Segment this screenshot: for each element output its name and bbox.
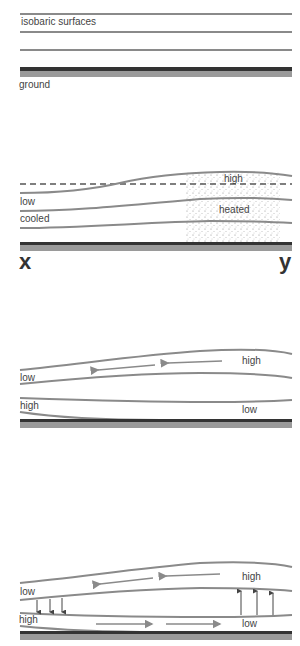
high-label: high [224,174,243,184]
y-label: y [279,251,291,273]
x-label: x [19,251,31,273]
heated-label: heated [219,205,250,215]
lower-high-label: high [20,401,39,411]
ground-label: ground [19,80,50,90]
cooled-label: cooled [20,214,49,224]
panel-3-upper-flow-arrows [98,361,222,370]
sea-breeze-diagram [0,0,300,646]
upper-low-label: low [20,587,35,597]
lower-low-label: low [242,405,257,415]
panel-4-rising-arrows [241,591,273,615]
upper-high-label: high [242,356,261,366]
isobaric-surfaces-label: isobaric surfaces [21,17,96,27]
panel-4-ground [20,631,292,640]
low-label: low [20,197,35,207]
panel-4-upper-flow-arrows [100,574,220,584]
lower-high-label: high [19,615,38,625]
panel-4-sinking-arrows [37,598,62,612]
panel-3-ground [20,419,292,428]
lower-low-label: low [242,619,257,629]
panel-2-ground [20,242,292,251]
panel-1-ground [20,67,292,77]
upper-low-label: low [20,373,35,383]
upper-high-label: high [242,572,261,582]
